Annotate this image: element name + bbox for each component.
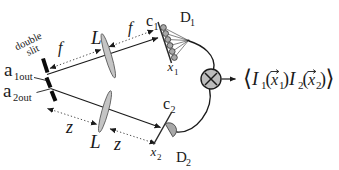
formula-x2: x [307, 71, 315, 88]
formula-rbracket: ⟩ [326, 65, 335, 91]
formula-I2: I [288, 68, 297, 89]
mode2-main: a [3, 80, 12, 101]
mode1-leader-line [34, 78, 47, 81]
svg-text:2: 2 [171, 104, 176, 115]
point-detector-icon [165, 123, 176, 137]
double-slit-label: double slit [13, 30, 48, 62]
mode2-leader-line [37, 89, 51, 93]
screen2-label: c 2 [163, 95, 176, 115]
mode1-sub: 1out [14, 71, 33, 82]
svg-text:c: c [146, 12, 153, 29]
lens-bottom-label: L [89, 131, 101, 152]
svg-text:x: x [150, 144, 157, 159]
focal-left-label: f [58, 39, 65, 57]
svg-text:2: 2 [157, 152, 162, 162]
correlator-icon [201, 69, 221, 89]
optics-diagram: double slit a 1out a 2out f f L L z z c … [0, 0, 339, 170]
wire-d2-to-correlator [177, 89, 211, 133]
lens-icon-upper [99, 33, 118, 79]
lens-icon-lower [96, 90, 114, 133]
focal-right-label: f [128, 19, 135, 37]
mode2-label: a 2out [3, 80, 32, 103]
dist-left-label: z [65, 117, 73, 137]
wire-d1-to-correlator [189, 41, 214, 70]
lens-top-label: L [90, 27, 102, 48]
svg-text:x: x [167, 59, 174, 74]
detector2-label: D 2 [176, 149, 191, 168]
coord2-label: x 2 [150, 144, 162, 162]
svg-text:1: 1 [190, 17, 195, 28]
svg-text:1: 1 [154, 21, 159, 32]
formula-x1: x [270, 71, 278, 88]
coord1-label: x 1 [167, 59, 179, 77]
mode2-sub: 2out [13, 92, 32, 103]
formula-I1: I [251, 68, 260, 89]
detector1-label: D 1 [180, 9, 195, 28]
svg-text:1: 1 [174, 67, 179, 77]
screen1-label: c 1 [146, 12, 159, 32]
svg-text:2: 2 [186, 157, 191, 168]
mode1-main: a [4, 59, 13, 80]
correlation-formula: ⟨ I 1 ( x 1 ) I 2 ( x 2 ) ⟩ [243, 65, 334, 92]
diagram-svg: double slit a 1out a 2out f f L L z z c … [0, 0, 339, 170]
formula-lbracket: ⟨ [243, 65, 252, 91]
mode1-label: a 1out [4, 59, 33, 82]
dist-right-label: z [113, 134, 121, 154]
svg-text:c: c [163, 95, 170, 112]
